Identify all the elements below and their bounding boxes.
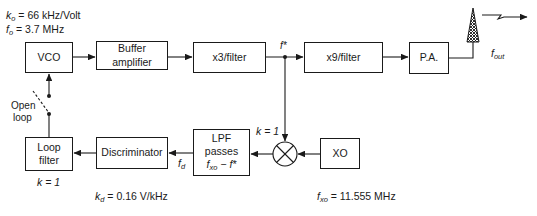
fo-label: fo = 3.7 MHz (6, 24, 64, 37)
kd-label: kd = 0.16 V/kHz (95, 191, 168, 204)
mixer-gain-label: k = 1 (256, 126, 279, 137)
power-amplifier-block: P.A. (409, 42, 449, 74)
connection-lines (0, 0, 537, 216)
open-loop-label-line1: Open (11, 101, 35, 111)
antenna-icon (467, 8, 479, 42)
buffer-amplifier-block: Buffer amplifier (96, 41, 168, 70)
x3-filter-block: x3/filter (193, 42, 266, 73)
fstar-label: f* (280, 41, 287, 51)
discriminator-block: Discriminator (96, 137, 168, 169)
loop-filter-gain-label: k = 1 (37, 177, 60, 188)
fxo-label: fxo = 11.555 MHz (317, 191, 396, 204)
xo-block: XO (320, 138, 360, 169)
lpf-block: LPF passes fxo − f* (193, 129, 250, 176)
vco-block: VCO (25, 42, 73, 73)
fout-label: fout (491, 48, 504, 61)
ko-label: ko = 66 kHz/Volt (6, 10, 81, 23)
open-loop-label-line2: loop (13, 113, 32, 123)
x9-filter-block: x9/filter (304, 42, 383, 73)
loop-filter-block: Loop filter (25, 137, 73, 171)
fd-label: fd (178, 158, 185, 171)
lpf-expression: fxo − f* (207, 158, 237, 172)
